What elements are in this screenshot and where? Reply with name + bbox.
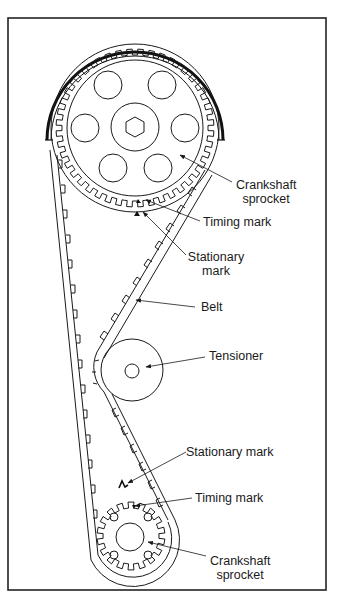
bottom-sprocket-teeth [97, 502, 165, 570]
label-line: Stationary [186, 250, 246, 264]
label-bottom-stationary-mark: Stationary mark [186, 445, 274, 459]
label-top-timing-mark: Timing mark [203, 215, 271, 229]
timing-cover-arc [45, 52, 225, 140]
timing-belt [50, 150, 212, 587]
timing-belt-diagram [0, 0, 337, 601]
label-tensioner: Tensioner [209, 349, 263, 363]
label-line: Crankshaft [210, 554, 270, 568]
bottom-stationary-mark-symbol [119, 481, 128, 488]
label-line: sprocket [236, 192, 296, 206]
hex-bolt-icon [126, 117, 144, 137]
label-line: Crankshaft [236, 178, 296, 192]
label-line: mark [186, 264, 246, 278]
label-bottom-crankshaft-sprocket: Crankshaft sprocket [210, 554, 270, 582]
label-top-stationary-mark: Stationary mark [186, 250, 246, 278]
tensioner-pulley [101, 339, 163, 401]
label-line: sprocket [210, 568, 270, 582]
label-top-crankshaft-sprocket: Crankshaft sprocket [236, 178, 296, 206]
bottom-crankshaft-sprocket [97, 502, 165, 570]
top-crankshaft-sprocket [51, 44, 219, 212]
label-belt: Belt [201, 300, 223, 314]
label-bottom-timing-mark: Timing mark [195, 491, 263, 505]
